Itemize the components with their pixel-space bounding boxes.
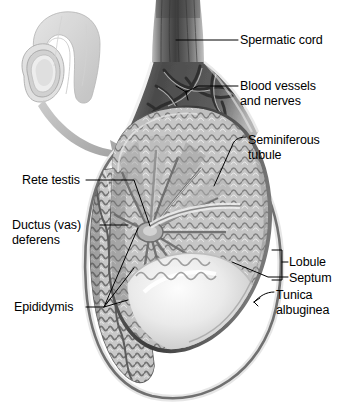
- testis-anatomy-figure: [0, 0, 346, 410]
- label-blood-vessels-and-nerves: Blood vessels and nerves: [240, 79, 316, 108]
- spermatic-cord-structure: [152, 0, 204, 62]
- label-septum: Septum: [289, 271, 331, 286]
- label-spermatic-cord: Spermatic cord: [240, 33, 323, 48]
- label-rete-testis: Rete testis: [22, 173, 80, 188]
- label-ductus-vas-deferens: Ductus (vas) deferens: [12, 218, 81, 247]
- label-lobule: Lobule: [289, 255, 326, 270]
- label-epididymis: Epididymis: [14, 300, 73, 315]
- label-seminiferous-tubule: Seminiferous tubule: [248, 133, 320, 162]
- label-tunica-albuginea: Tunica albuginea: [276, 288, 329, 317]
